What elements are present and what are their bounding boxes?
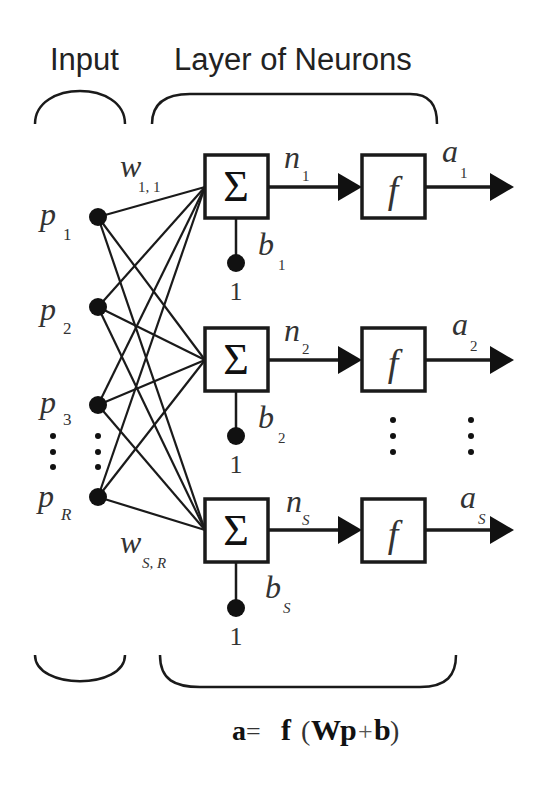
eq-b: b [374,713,391,746]
input-ellipsis [50,433,101,470]
eq-W: W [311,713,341,746]
arrow-icon [338,173,362,201]
neural-layer-diagram: Input Layer of Neurons p 1 p 2 p 3 p R w [0,0,547,786]
bias-input-1: 1 [230,277,243,306]
input-label-R: p [36,478,54,514]
out-label-S: a [460,479,476,515]
layer-header: Layer of Neurons [174,42,412,77]
bias-label-S: b [265,569,281,605]
sigma-icon: Σ [223,506,249,555]
input-node-3 [89,396,107,414]
out-sub-2: 2 [470,338,478,354]
output-arrow-icon [490,516,514,544]
out-sub-1: 1 [460,165,468,181]
eq-p: p [340,713,357,746]
bias-input-S: 1 [230,622,243,651]
net-label-2: n [284,312,300,348]
bias-node-2 [227,427,245,445]
net-sub-2: 2 [302,341,310,357]
bias-label-1: b [258,226,274,262]
net-sub-1: 1 [302,168,310,184]
net-sub-S: S [302,512,310,528]
input-sub-2: 2 [63,319,72,338]
bias-input-2: 1 [230,450,243,479]
weight-sub-last: S, R [142,555,166,571]
input-label-1: p [38,196,56,232]
output-arrow-icon [490,346,514,374]
input-sub-3: 3 [63,410,72,429]
neuron-S: Σ 1 b S n S f a S [205,479,514,651]
input-brace-bottom [35,655,125,681]
bias-sub-2: 2 [278,430,286,446]
input-label-2: p [38,291,56,327]
arrow-icon [338,346,362,374]
sigma-icon: Σ [223,335,249,384]
arrow-icon [338,516,362,544]
input-node-1 [89,208,107,226]
weight-label-last: w [120,524,142,560]
sigma-icon: Σ [223,162,249,211]
bias-label-2: b [258,399,274,435]
net-label-S: n [286,483,302,519]
neuron-2: Σ 1 b 2 n 2 f a 2 [205,306,514,479]
weight-sub-first: 1, 1 [138,179,161,195]
out-label-1: a [442,133,458,169]
weight-connections [98,187,205,530]
layer-equation: a = f ( W p + b ) [232,713,399,746]
eq-f: f [281,713,292,746]
layer-brace-bottom [160,655,456,687]
net-label-1: n [284,139,300,175]
eq-plus: + [358,717,373,746]
input-sub-R: R [60,505,72,524]
input-brace-top [35,91,125,124]
input-header: Input [50,42,119,77]
out-label-2: a [452,306,468,342]
eq-rparen: ) [390,715,399,746]
neuron-1: Σ 1 b 1 n 1 f a 1 [205,133,514,306]
layer-brace-top [152,94,437,124]
input-node-R [89,488,107,506]
input-node-2 [89,298,107,316]
bias-node-1 [227,254,245,272]
input-sub-1: 1 [63,225,72,244]
bias-sub-S: S [283,600,291,616]
bias-node-S [227,599,245,617]
output-arrow-icon [490,173,514,201]
eq-a: a [232,715,246,746]
eq-equals: = [246,717,261,746]
out-sub-S: S [478,511,486,527]
input-label-3: p [38,384,56,420]
eq-lparen: ( [301,715,310,746]
neuron-ellipsis [390,417,474,455]
bias-sub-1: 1 [278,257,286,273]
